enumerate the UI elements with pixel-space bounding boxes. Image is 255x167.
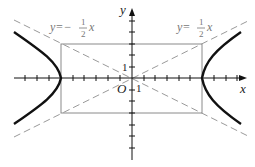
x-axis-label: x [239,81,246,96]
x-unit-label: 1 [136,82,142,94]
asymptote-label-negative: y=− 1 2 x [49,17,95,39]
origin-label: O [117,81,127,96]
y-unit-label: 1 [122,61,128,73]
svg-text:x: x [206,20,213,34]
svg-text:y=−: y=− [49,20,72,34]
svg-text:x: x [88,20,95,34]
svg-text:2: 2 [81,29,86,39]
svg-text:2: 2 [199,29,204,39]
y-axis-label: y [118,2,126,17]
y-axis-arrow-icon [129,8,135,16]
hyperbola-diagram: y x O 1 1 y=− 1 2 x y= 1 2 x [0,0,255,167]
asymptote-label-positive: y= 1 2 x [176,17,213,39]
svg-text:1: 1 [199,17,204,27]
svg-text:1: 1 [81,17,86,27]
svg-text:y=: y= [176,20,190,34]
